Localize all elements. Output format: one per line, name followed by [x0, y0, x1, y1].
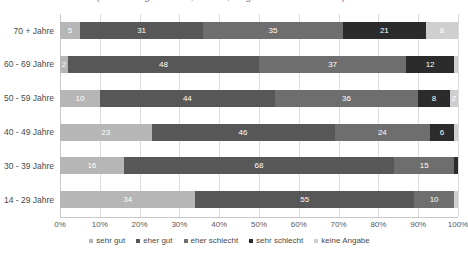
x-tick-label: 60% [291, 220, 307, 229]
stacked-bar: 2346246 [60, 124, 458, 141]
bar-segment[interactable]: 15 [394, 157, 454, 174]
bar-segment[interactable]: 8 [426, 22, 458, 39]
category-label: 70 + Jahre [0, 26, 54, 36]
bar-row: 2483712 [60, 48, 458, 82]
bar-value-label: 8 [440, 26, 444, 35]
bar-segment[interactable]: 6 [430, 124, 454, 141]
legend-label: keine Angabe [321, 236, 370, 245]
x-tick-label: 30% [171, 220, 187, 229]
bar-segment[interactable]: 10 [60, 90, 100, 107]
bar-value-label: 10 [430, 195, 439, 204]
bar-segment[interactable] [454, 56, 458, 73]
chart-title-clipped: (Anwendungsbereiche, Risiken, Möglichkei… [0, 0, 459, 11]
bar-value-label: 2 [62, 60, 66, 69]
bar-segment[interactable]: 68 [124, 157, 395, 174]
stacked-bar: 53135218 [60, 22, 458, 39]
bar-value-label: 37 [328, 60, 337, 69]
bar-row: 166815 [60, 149, 458, 183]
category-label: 40 - 49 Jahre [0, 127, 54, 137]
bar-value-label: 31 [137, 26, 146, 35]
bar-segment[interactable] [454, 124, 458, 141]
bar-segment[interactable]: 35 [203, 22, 342, 39]
stacked-bar: 345510 [60, 191, 458, 208]
legend-swatch-icon [184, 239, 188, 243]
bar-value-label: 8 [432, 94, 436, 103]
bar-segment[interactable] [454, 157, 458, 174]
x-tick-label: 70% [331, 220, 347, 229]
chart-title-text: (Anwendungsbereiche, Risiken, Möglichkei… [96, 0, 363, 2]
bar-value-label: 10 [75, 94, 84, 103]
legend-swatch-icon [136, 239, 140, 243]
bar-value-label: 68 [255, 161, 264, 170]
bar-segment[interactable]: 12 [406, 56, 454, 73]
legend-item[interactable]: sehr gut [89, 236, 125, 245]
bar-value-label: 36 [342, 94, 351, 103]
bar-row: 53135218 [60, 14, 458, 48]
bar-value-label: 48 [159, 60, 168, 69]
category-label: 50 - 59 Jahre [0, 93, 54, 103]
bar-row: 10443682 [60, 82, 458, 116]
bar-segment[interactable]: 31 [80, 22, 203, 39]
bar-segment[interactable]: 8 [418, 90, 450, 107]
bar-value-label: 24 [378, 128, 387, 137]
plot-area: 5313521824837121044368223462461668153455… [60, 14, 458, 217]
stacked-bar: 10443682 [60, 90, 458, 107]
bar-segment[interactable]: 2 [60, 56, 68, 73]
x-tick-label: 10% [92, 220, 108, 229]
category-label: 14 - 29 Jahre [0, 195, 54, 205]
bar-value-label: 34 [123, 195, 132, 204]
x-tick-label: 20% [132, 220, 148, 229]
bar-value-label: 55 [300, 195, 309, 204]
legend-swatch-icon [249, 239, 253, 243]
bar-value-label: 5 [68, 26, 72, 35]
x-tick-label: 90% [410, 220, 426, 229]
x-axis-line [60, 217, 458, 218]
stacked-bar: 2483712 [60, 56, 458, 73]
bar-segment[interactable]: 2 [450, 90, 458, 107]
category-label: 60 - 69 Jahre [0, 59, 54, 69]
bar-segment[interactable] [454, 191, 458, 208]
legend-item[interactable]: sehr schlecht [249, 236, 303, 245]
legend-swatch-icon [89, 239, 93, 243]
legend-item[interactable]: keine Angabe [314, 236, 370, 245]
bar-value-label: 12 [426, 60, 435, 69]
bar-value-label: 21 [380, 26, 389, 35]
gridline-100 [458, 14, 459, 217]
bar-value-label: 46 [239, 128, 248, 137]
x-tick-label: 0% [54, 220, 66, 229]
bar-segment[interactable]: 37 [259, 56, 406, 73]
x-tick-label: 100% [448, 220, 468, 229]
bar-value-label: 23 [101, 128, 110, 137]
legend-swatch-icon [314, 239, 318, 243]
bar-value-label: 6 [440, 128, 444, 137]
x-tick-label: 80% [370, 220, 386, 229]
legend-item[interactable]: eher gut [136, 236, 172, 245]
chart-legend: sehr guteher guteher schlechtsehr schlec… [0, 236, 459, 245]
bar-segment[interactable]: 36 [275, 90, 418, 107]
legend-item[interactable]: eher schlecht [184, 236, 239, 245]
x-tick-label: 50% [251, 220, 267, 229]
legend-label: eher gut [143, 236, 172, 245]
category-label: 30 - 39 Jahre [0, 161, 54, 171]
bar-value-label: 44 [183, 94, 192, 103]
bar-segment[interactable]: 55 [195, 191, 414, 208]
bar-segment[interactable]: 10 [414, 191, 454, 208]
bar-segment[interactable]: 34 [60, 191, 195, 208]
bar-segment[interactable]: 16 [60, 157, 124, 174]
bar-value-label: 16 [87, 161, 96, 170]
bar-value-label: 15 [420, 161, 429, 170]
bar-segment[interactable]: 24 [335, 124, 431, 141]
bar-row: 2346246 [60, 116, 458, 150]
legend-label: sehr schlecht [256, 236, 303, 245]
bar-value-label: 35 [268, 26, 277, 35]
bar-segment[interactable]: 21 [343, 22, 427, 39]
legend-label: eher schlecht [191, 236, 239, 245]
stacked-bar: 166815 [60, 157, 458, 174]
bar-segment[interactable]: 44 [100, 90, 275, 107]
legend-label: sehr gut [96, 236, 125, 245]
bar-row: 345510 [60, 183, 458, 217]
bar-segment[interactable]: 48 [68, 56, 259, 73]
bar-segment[interactable]: 23 [60, 124, 152, 141]
bar-segment[interactable]: 5 [60, 22, 80, 39]
bar-segment[interactable]: 46 [152, 124, 335, 141]
